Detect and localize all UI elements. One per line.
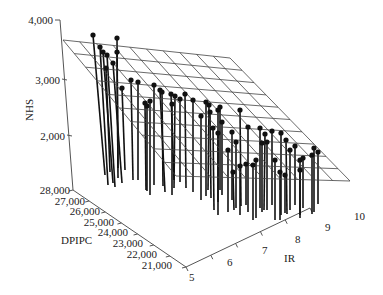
data-point bbox=[282, 172, 287, 177]
data-point bbox=[169, 101, 174, 106]
data-point bbox=[135, 79, 140, 84]
data-stem bbox=[131, 80, 133, 180]
data-point bbox=[264, 139, 269, 144]
data-point bbox=[104, 52, 109, 57]
data-stem bbox=[122, 88, 125, 170]
plane-grid-line bbox=[176, 176, 350, 181]
data-point bbox=[128, 77, 133, 82]
z-tick-label: 4,000 bbox=[28, 14, 53, 26]
data-point bbox=[198, 113, 203, 118]
x-tick bbox=[186, 267, 188, 271]
z-tick bbox=[67, 135, 72, 136]
data-point bbox=[206, 102, 211, 107]
z-tick bbox=[62, 79, 67, 80]
data-point bbox=[144, 103, 149, 108]
z-axis-line bbox=[60, 20, 73, 190]
plane-grid-line bbox=[180, 53, 298, 180]
y-tick bbox=[166, 256, 170, 257]
data-point bbox=[114, 35, 119, 40]
data-point bbox=[147, 98, 152, 103]
y-tick-label: 21,000 bbox=[142, 259, 173, 271]
data-point bbox=[259, 140, 264, 145]
data-point bbox=[119, 85, 124, 90]
data-stem bbox=[264, 134, 265, 210]
data-stem bbox=[210, 112, 211, 198]
data-point bbox=[245, 124, 250, 129]
data-point bbox=[253, 157, 258, 162]
data-point bbox=[230, 169, 235, 174]
data-point bbox=[237, 163, 242, 168]
data-point bbox=[315, 149, 320, 154]
y-tick bbox=[85, 201, 89, 202]
data-point bbox=[233, 139, 238, 144]
data-point bbox=[225, 147, 230, 152]
x-tick-label: 9 bbox=[325, 221, 331, 233]
data-point bbox=[103, 65, 108, 70]
data-point bbox=[182, 91, 187, 96]
z-tick-label: 3,000 bbox=[35, 74, 60, 86]
data-point bbox=[269, 128, 274, 133]
y-axis-label: DPIPC bbox=[61, 234, 92, 246]
data-point bbox=[159, 89, 164, 94]
y-tick bbox=[101, 212, 105, 213]
data-stems bbox=[93, 35, 318, 220]
data-point bbox=[300, 155, 305, 160]
x-tick bbox=[236, 243, 238, 247]
data-point bbox=[229, 129, 234, 134]
z-tick-label: 2,000 bbox=[40, 130, 65, 142]
data-point bbox=[219, 119, 224, 124]
data-point bbox=[292, 143, 297, 148]
data-stem bbox=[213, 128, 214, 210]
x-tick-label: 5 bbox=[189, 271, 195, 283]
data-point bbox=[217, 104, 222, 109]
data-point bbox=[190, 97, 195, 102]
data-point bbox=[311, 145, 316, 150]
x-tick-label: 7 bbox=[262, 244, 268, 256]
x-tick-label: 10 bbox=[354, 210, 366, 222]
data-stem bbox=[117, 52, 118, 168]
x-tick bbox=[260, 232, 262, 236]
data-point bbox=[243, 161, 248, 166]
x-tick-label: 6 bbox=[227, 256, 233, 268]
chart-3d-scatter: 4,000 3,000 2,000 NHS 28,000 27,000 26,0… bbox=[0, 0, 383, 295]
data-point bbox=[257, 125, 262, 130]
data-point bbox=[177, 96, 182, 101]
y-tick bbox=[134, 234, 138, 235]
data-point bbox=[250, 162, 255, 167]
data-point bbox=[297, 167, 302, 172]
data-point bbox=[262, 131, 267, 136]
data-point bbox=[210, 125, 215, 130]
data-stem bbox=[185, 94, 186, 188]
y-tick bbox=[117, 223, 121, 224]
data-point bbox=[90, 32, 95, 37]
data-stem bbox=[145, 103, 146, 190]
x-tick-label: 8 bbox=[295, 233, 301, 245]
x-axis-label: IR bbox=[284, 252, 296, 264]
z-axis-label: NHS bbox=[23, 99, 35, 121]
plane-grid-line bbox=[131, 122, 302, 132]
data-point bbox=[215, 130, 220, 135]
y-tick bbox=[150, 245, 154, 246]
y-tick bbox=[182, 267, 186, 268]
data-point bbox=[172, 93, 177, 98]
data-point bbox=[277, 169, 282, 174]
data-point bbox=[309, 152, 314, 157]
data-point bbox=[272, 157, 277, 162]
data-point bbox=[151, 82, 156, 87]
data-point bbox=[287, 147, 292, 152]
data-point bbox=[278, 130, 283, 135]
data-point bbox=[283, 137, 288, 142]
data-point bbox=[110, 60, 115, 65]
data-point bbox=[97, 44, 102, 49]
x-tick bbox=[285, 220, 287, 224]
data-point bbox=[207, 109, 212, 114]
data-point bbox=[114, 49, 119, 54]
x-tick bbox=[211, 255, 213, 259]
data-point bbox=[237, 107, 242, 112]
